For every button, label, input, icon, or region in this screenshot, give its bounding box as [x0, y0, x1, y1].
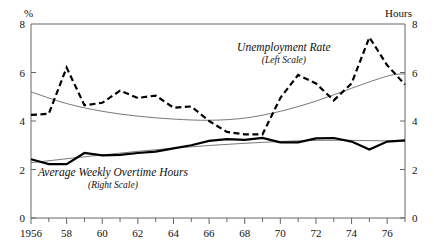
time-series-chart: % Hours 02468 02468 19565860626466687072… — [0, 0, 434, 244]
unemployment-annotation-title: Unemployment Rate — [237, 41, 331, 54]
right-axis-tick-label: 4 — [412, 115, 418, 127]
x-axis-tick-label: 60 — [97, 227, 109, 239]
x-axis-tick-label: 74 — [346, 227, 358, 239]
right-axis-unit-label: Hours — [385, 7, 412, 19]
chart-figure: % Hours 02468 02468 19565860626466687072… — [0, 0, 434, 244]
right-axis-tick-label: 0 — [412, 212, 418, 224]
x-axis-tick-label: 76 — [382, 227, 394, 239]
left-axis-unit-label: % — [24, 7, 33, 19]
unemployment-annotation-scale-note: (Left Scale) — [262, 55, 306, 66]
x-axis-tick-label: 58 — [61, 227, 73, 239]
left-axis-tick-label: 2 — [20, 164, 26, 176]
left-axis-tick-label: 6 — [20, 67, 26, 79]
left-axis-tick-label: 8 — [20, 18, 26, 30]
x-axis-tick-label: 1956 — [20, 227, 43, 239]
overtime-annotation-scale-note: (Right Scale) — [88, 180, 138, 191]
x-axis-tick-label: 62 — [132, 227, 143, 239]
right-axis-tick-label: 8 — [412, 18, 418, 30]
chart-background — [0, 0, 434, 244]
x-axis-tick-label: 66 — [204, 227, 216, 239]
x-axis-tick-label: 68 — [239, 227, 251, 239]
x-axis-tick-label: 70 — [275, 227, 287, 239]
right-axis-tick-label: 6 — [412, 67, 418, 79]
left-axis-tick-label: 4 — [20, 115, 26, 127]
overtime-annotation-title: Average Weekly Overtime Hours — [37, 166, 189, 179]
left-axis-tick-label: 0 — [20, 212, 26, 224]
x-axis-tick-label: 64 — [168, 227, 180, 239]
x-axis-tick-label: 72 — [310, 227, 321, 239]
right-axis-tick-label: 2 — [412, 164, 418, 176]
